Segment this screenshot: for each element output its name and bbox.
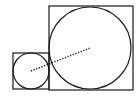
center-connecting-line bbox=[31, 48, 90, 71]
geometry-diagram bbox=[0, 0, 136, 99]
